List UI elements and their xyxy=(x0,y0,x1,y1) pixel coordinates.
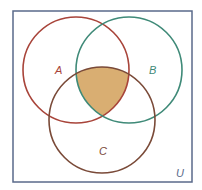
label-universe: U xyxy=(176,167,184,179)
venn-diagram: A B C U xyxy=(0,0,202,190)
label-a: A xyxy=(54,64,62,76)
label-c: C xyxy=(99,145,107,157)
label-b: B xyxy=(149,64,156,76)
